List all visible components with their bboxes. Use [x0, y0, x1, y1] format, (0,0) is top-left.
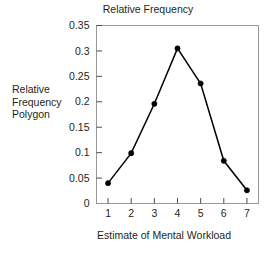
- x-tick-label: 4: [175, 207, 181, 219]
- x-axis-ticks: 1234567: [105, 198, 250, 219]
- y-tick-label: 0.35: [69, 19, 90, 31]
- y-tick-label: 0.05: [69, 172, 90, 184]
- x-tick-label: 2: [128, 207, 134, 219]
- data-markers: [105, 46, 249, 193]
- x-tick-label: 1: [105, 207, 111, 219]
- data-point-marker: [221, 158, 226, 163]
- x-tick-label: 5: [198, 207, 204, 219]
- data-point-marker: [175, 46, 180, 51]
- data-point-marker: [152, 101, 157, 106]
- x-tick-label: 6: [221, 207, 227, 219]
- y-tick-label: 0.15: [69, 121, 90, 133]
- y-tick-label: 0: [84, 197, 90, 209]
- data-polyline: [108, 48, 247, 190]
- x-axis-title: Estimate of Mental Workload: [60, 229, 268, 241]
- plot-frame: [97, 26, 259, 204]
- relative-frequency-polygon-figure: Relative Frequency Relative Frequency Po…: [0, 0, 268, 254]
- data-point-marker: [129, 151, 134, 156]
- y-tick-label: 0.25: [69, 70, 90, 82]
- data-point-marker: [244, 188, 249, 193]
- y-tick-label: 0.3: [75, 45, 90, 57]
- y-tick-label: 0.2: [75, 95, 90, 107]
- x-tick-label: 3: [151, 207, 157, 219]
- y-axis-ticks: 00.050.10.150.20.250.30.35: [69, 19, 102, 209]
- data-point-marker: [198, 81, 203, 86]
- data-point-marker: [105, 181, 110, 186]
- x-tick-label: 7: [244, 207, 250, 219]
- plot-area: 00.050.10.150.20.250.30.35 1234567: [0, 0, 268, 254]
- y-tick-label: 0.1: [75, 146, 90, 158]
